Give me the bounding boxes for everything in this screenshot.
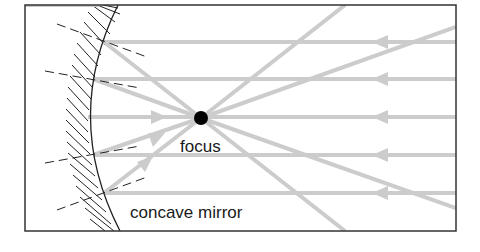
focus-label: focus	[180, 137, 221, 156]
focus-point	[194, 111, 208, 125]
mirror-label: concave mirror	[130, 203, 243, 222]
concave-mirror-diagram: focus concave mirror	[0, 0, 480, 252]
